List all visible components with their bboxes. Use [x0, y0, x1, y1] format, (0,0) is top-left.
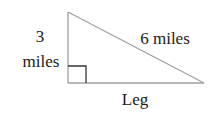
right-triangle-diagram: 3 miles 6 miles Leg — [0, 0, 212, 119]
horizontal-leg-label: Leg — [122, 90, 149, 109]
right-angle-marker — [68, 66, 86, 83]
vertical-leg-label-value: 3 — [36, 27, 45, 46]
hypotenuse-label: 6 miles — [140, 29, 190, 48]
vertical-leg-label-unit: miles — [23, 52, 60, 71]
triangle-figure: 3 miles 6 miles Leg — [0, 0, 212, 119]
